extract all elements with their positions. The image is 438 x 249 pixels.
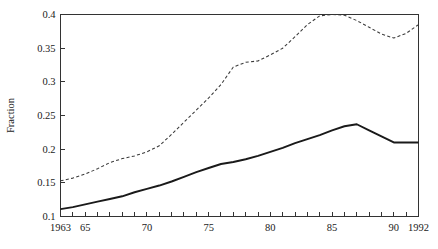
x-tick-label: 1992 — [408, 222, 429, 233]
y-tick-label: 0.2 — [42, 144, 55, 155]
y-tick-label: 0.15 — [37, 177, 55, 188]
x-tick-label: 90 — [389, 222, 400, 233]
line-chart: 0.10.150.20.250.30.350.4 196365707580859… — [0, 0, 438, 249]
data-series-group — [61, 15, 419, 210]
chart-figure: 0.10.150.20.250.30.350.4 196365707580859… — [0, 0, 438, 249]
plot-frame — [61, 15, 419, 217]
y-axis-title: Fraction — [5, 97, 16, 133]
y-axis-ticks — [61, 15, 66, 217]
solid-series-line — [61, 124, 419, 209]
x-axis-ticks — [61, 212, 419, 217]
y-tick-label: 0.3 — [42, 76, 55, 87]
y-tick-label: 0.25 — [37, 110, 55, 121]
x-tick-label: 1963 — [50, 222, 71, 233]
y-tick-label: 0.4 — [42, 9, 56, 20]
y-axis-tick-labels: 0.10.150.20.250.30.350.4 — [37, 9, 56, 222]
x-tick-label: 70 — [142, 222, 153, 233]
x-tick-label: 75 — [203, 222, 214, 233]
x-tick-label: 80 — [265, 222, 276, 233]
x-tick-label: 85 — [327, 222, 338, 233]
dashed-series-line — [61, 15, 419, 181]
plot-border — [61, 15, 419, 217]
x-tick-label: 65 — [80, 222, 91, 233]
y-tick-label: 0.1 — [42, 211, 55, 222]
x-axis-tick-labels: 19636570758085901992 — [50, 222, 429, 233]
y-tick-label: 0.35 — [37, 43, 55, 54]
